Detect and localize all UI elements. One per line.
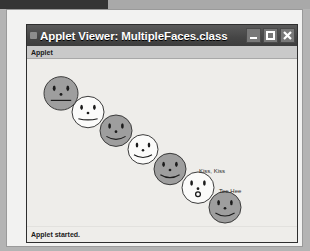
- minimize-icon: [248, 30, 259, 41]
- face-caption-1: Kiss, Kiss: [199, 168, 225, 174]
- close-button[interactable]: [280, 28, 295, 43]
- faces-group: [44, 77, 241, 223]
- scan-artifact-dark-bar: [0, 0, 108, 9]
- face-5: [154, 153, 186, 184]
- faces-drawing: [27, 59, 297, 226]
- scan-artifact-light-bar: [108, 0, 310, 9]
- close-icon: [282, 30, 293, 41]
- face-7: [209, 192, 241, 223]
- applet-viewer-window: Applet Viewer: MultipleFaces.class Apple…: [26, 24, 298, 243]
- applet-canvas: Kiss, KissTee Hee: [27, 59, 297, 226]
- face-3: [100, 115, 132, 146]
- maximize-button[interactable]: [263, 28, 278, 43]
- minimize-button[interactable]: [246, 28, 261, 43]
- statusbar: Applet started.: [27, 226, 297, 242]
- menubar: Applet: [27, 46, 297, 59]
- window-titlebar[interactable]: Applet Viewer: MultipleFaces.class: [27, 25, 297, 46]
- menu-item-applet[interactable]: Applet: [31, 49, 53, 56]
- window-title: Applet Viewer: MultipleFaces.class: [40, 30, 244, 42]
- applet-window-icon: [30, 32, 37, 39]
- status-text: Applet started.: [31, 231, 80, 238]
- face-4: [128, 135, 158, 164]
- page-background: Applet Viewer: MultipleFaces.class Apple…: [6, 9, 303, 247]
- maximize-icon: [265, 30, 276, 41]
- face-1: [44, 77, 78, 110]
- face-6: [182, 172, 214, 203]
- face-caption-2: Tee Hee: [219, 188, 241, 194]
- face-2: [72, 96, 104, 127]
